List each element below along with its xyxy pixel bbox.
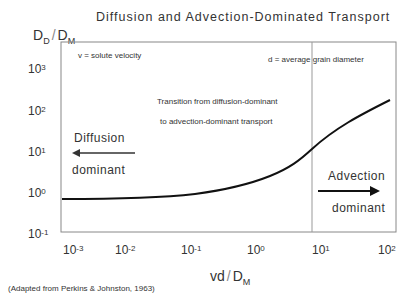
transition-label-1: Transition from diffusion-dominant (157, 97, 278, 106)
advection-label-1: Advection (328, 169, 385, 183)
source-caption: (Adapted from Perkins & Johnston, 1963) (8, 284, 155, 293)
y-tick: 100 (28, 186, 46, 200)
transition-label-2: to advection-dominant transport (160, 117, 273, 126)
y-tick: 101 (28, 145, 46, 159)
y-tick: 103 (28, 62, 46, 76)
x-axis-label: vd/DM (210, 268, 250, 284)
d-definition: d = average grain diameter (268, 55, 364, 64)
diffusion-label-1: Diffusion (74, 131, 125, 145)
v-definition: v = solute velocity (78, 51, 141, 60)
x-tick: 100 (247, 243, 265, 257)
x-tick: 10-1 (181, 243, 201, 257)
x-tick: 101 (312, 243, 330, 257)
advection-label-2: dominant (332, 201, 385, 215)
x-tick: 102 (378, 243, 396, 257)
x-tick: 10-2 (115, 243, 135, 257)
y-tick: 10-1 (28, 227, 48, 241)
x-tick: 10-3 (63, 243, 83, 257)
y-tick: 102 (28, 104, 46, 118)
data-curve (62, 100, 390, 199)
diffusion-label-2: dominant (72, 163, 125, 177)
plot-area (0, 0, 411, 299)
